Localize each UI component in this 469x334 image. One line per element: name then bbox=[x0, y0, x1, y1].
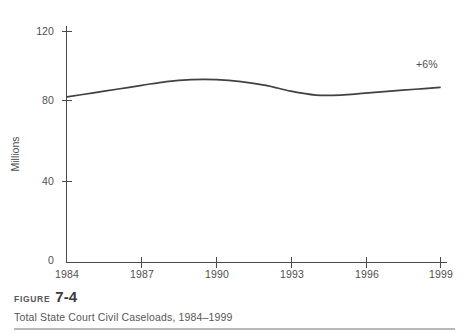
y-tick-label-120: 120 bbox=[10, 25, 54, 37]
x-tick-label-1984: 1984 bbox=[42, 268, 92, 280]
figure-heading: FIGURE 7-4 bbox=[14, 288, 455, 305]
y-axis-title: Millions bbox=[9, 119, 21, 189]
series-growth-annotation: +6% bbox=[416, 58, 438, 70]
line-chart: 120 80 40 0 Millions 1984 1987 1990 1993… bbox=[0, 0, 469, 285]
x-tick-label-1990: 1990 bbox=[192, 268, 242, 280]
caption-divider bbox=[14, 328, 455, 330]
caseload-series-line bbox=[67, 79, 440, 97]
x-tick-label-1987: 1987 bbox=[117, 268, 167, 280]
y-tick-label-0: 0 bbox=[10, 254, 54, 266]
figure-caption-block: FIGURE 7-4 Total State Court Civil Casel… bbox=[14, 288, 455, 330]
x-tick-label-1999: 1999 bbox=[416, 268, 466, 280]
x-tick-label-1993: 1993 bbox=[267, 268, 317, 280]
y-tick-label-80: 80 bbox=[10, 94, 54, 106]
x-tick-label-1996: 1996 bbox=[342, 268, 392, 280]
figure-caption-text: Total State Court Civil Caseloads, 1984–… bbox=[14, 311, 455, 323]
figure-label-word: FIGURE bbox=[14, 294, 50, 304]
figure-number: 7-4 bbox=[55, 288, 77, 305]
chart-plot-area bbox=[0, 0, 469, 285]
figure-page: 120 80 40 0 Millions 1984 1987 1990 1993… bbox=[0, 0, 469, 334]
